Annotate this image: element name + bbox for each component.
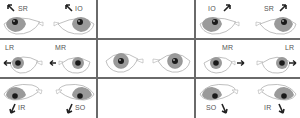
arrow-up-left-icon (6, 3, 16, 13)
grid-line-horizontal-bottom (0, 77, 300, 79)
arrow-up-right-icon (278, 3, 288, 13)
label-lr: LR (5, 44, 14, 51)
label-io: IO (208, 5, 216, 12)
gaze-diagram: SR IO IO SR LR M (0, 0, 300, 118)
eye-io-left-up-icon (52, 12, 96, 36)
arrow-down-right-icon (219, 103, 229, 115)
grid-line-horizontal-top (0, 38, 300, 40)
label-sr: SR (18, 5, 28, 12)
label-mr: MR (55, 44, 66, 51)
label-lr: LR (285, 44, 294, 51)
eye-mr-adduct-icon (48, 52, 94, 74)
eye-so-left-down-icon (52, 82, 96, 104)
arrow-up-right-icon (222, 3, 232, 13)
eye-sr-right-up-icon (2, 12, 46, 36)
eye-primary-left-icon (150, 49, 192, 73)
eye-io-right-up-icon (198, 12, 242, 36)
arrow-down-left-icon (65, 103, 75, 115)
grid-line-vertical-right (194, 0, 196, 118)
label-ir: IR (264, 104, 271, 111)
eye-ir-left-down-icon (254, 82, 298, 104)
eye-lr-abduct-icon (4, 52, 44, 74)
label-mr: MR (222, 44, 233, 51)
eye-primary-right-icon (104, 49, 146, 73)
eye-mr-adduct-icon (200, 52, 246, 74)
eye-lr-abduct-icon (254, 52, 298, 74)
eye-so-right-down-icon (198, 82, 242, 104)
eye-ir-right-down-icon (2, 82, 46, 104)
arrow-down-left-icon (8, 103, 18, 115)
label-so: SO (206, 104, 217, 111)
label-so: SO (75, 104, 86, 111)
label-io: IO (75, 5, 83, 12)
label-sr: SR (264, 5, 274, 12)
arrow-down-right-icon (276, 103, 286, 115)
eye-sr-left-up-icon (254, 12, 298, 36)
arrow-up-left-icon (64, 3, 74, 13)
label-ir: IR (18, 104, 25, 111)
grid-line-vertical-left (96, 0, 98, 118)
